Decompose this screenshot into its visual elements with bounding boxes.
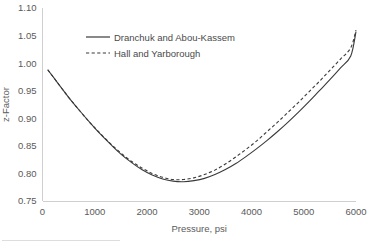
y-axis-tick-label: 1.10 xyxy=(18,2,37,13)
x-axis-tick-label: 0 xyxy=(40,206,45,217)
series-line-dranchuk-abou-kassem xyxy=(48,32,356,182)
y-axis-tick-label: 1.05 xyxy=(18,30,37,41)
y-axis-tick-label: 0.80 xyxy=(18,168,37,179)
legend-label-dranchuk-abou-kassem: Dranchuk and Abou-Kassem xyxy=(114,32,235,43)
y-axis-tick-label: 0.90 xyxy=(18,113,37,124)
legend-label-hall-yarborough: Hall and Yarborough xyxy=(114,48,200,59)
x-axis-tick-label: 3000 xyxy=(189,206,210,217)
line-chart: 0.750.800.850.900.951.001.051.10 0100020… xyxy=(0,0,370,244)
y-axis-tick-label: 0.75 xyxy=(18,195,37,206)
x-axis-tick-label: 5000 xyxy=(293,206,314,217)
y-axis-tick-label: 0.85 xyxy=(18,140,37,151)
x-axis-tick-label: 1000 xyxy=(84,206,105,217)
y-axis-title: z-Factor xyxy=(0,87,11,122)
chart-container: 0.750.800.850.900.951.001.051.10 0100020… xyxy=(0,0,370,244)
x-axis-tick-label: 4000 xyxy=(241,206,262,217)
x-axis-tick-label: 2000 xyxy=(136,206,157,217)
y-axis-tick-labels: 0.750.800.850.900.951.001.051.10 xyxy=(18,2,37,206)
x-axis-tick-labels: 0100020003000400050006000 xyxy=(40,206,367,217)
x-axis-tick-label: 6000 xyxy=(345,206,366,217)
y-axis-tick-label: 1.00 xyxy=(18,58,37,69)
x-axis-title: Pressure, psi xyxy=(172,223,227,234)
y-axis-tick-label: 0.95 xyxy=(18,85,37,96)
legend: Dranchuk and Abou-Kassem Hall and Yarbor… xyxy=(86,32,235,59)
